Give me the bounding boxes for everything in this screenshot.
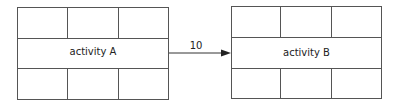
arrowhead-icon (221, 50, 231, 57)
edge-weight-label: 10 (186, 40, 206, 51)
edge-connector (0, 0, 401, 105)
